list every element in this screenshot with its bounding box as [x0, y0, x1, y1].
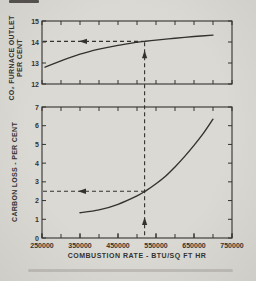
y-tick-label: 0: [35, 235, 39, 242]
y-tick-label: 7: [35, 104, 39, 111]
x-tick-label: 550000: [144, 242, 167, 249]
carbon-loss-panel-frame: [42, 107, 232, 238]
combustion-rate-up-arrow-bottom: [142, 217, 147, 225]
scanned-figure: CO₂ FURNACE OUTLET PER CENT CARBON LOSS …: [0, 0, 256, 281]
y-tick-label: 5: [35, 141, 39, 148]
carbon-loss-readoff-left-arrow: [78, 189, 86, 194]
y-tick-label: 14: [31, 39, 39, 46]
scan-artifact-smudge: [28, 269, 233, 272]
chart-canvas: 1213141501234567250000350000450000550000…: [0, 0, 256, 281]
co2-furnace-outlet-panel-frame: [42, 21, 232, 84]
combustion-rate-up-arrow-top: [142, 50, 147, 58]
x-tick-label: 250000: [30, 242, 53, 249]
y-tick-label: 4: [35, 160, 39, 167]
y-tick-label: 6: [35, 122, 39, 129]
co2-readoff-left-arrow: [79, 39, 87, 44]
carbon-loss-vs-combustion-rate-curve: [80, 119, 213, 213]
y-tick-label: 1: [35, 216, 39, 223]
x-tick-label: 350000: [68, 242, 91, 249]
x-tick-label: 450000: [106, 242, 129, 249]
y-tick-label: 3: [35, 178, 39, 185]
x-axis-label: COMBUSTION RATE - BTU/SQ FT HR: [18, 252, 256, 259]
y-tick-label: 13: [31, 60, 39, 67]
x-tick-label: 650000: [182, 242, 205, 249]
y-tick-label: 2: [35, 197, 39, 204]
y-tick-label: 12: [31, 81, 39, 88]
x-tick-label: 750000: [220, 242, 243, 249]
y-tick-label: 15: [31, 18, 39, 25]
co2-vs-combustion-rate-curve: [45, 35, 213, 67]
